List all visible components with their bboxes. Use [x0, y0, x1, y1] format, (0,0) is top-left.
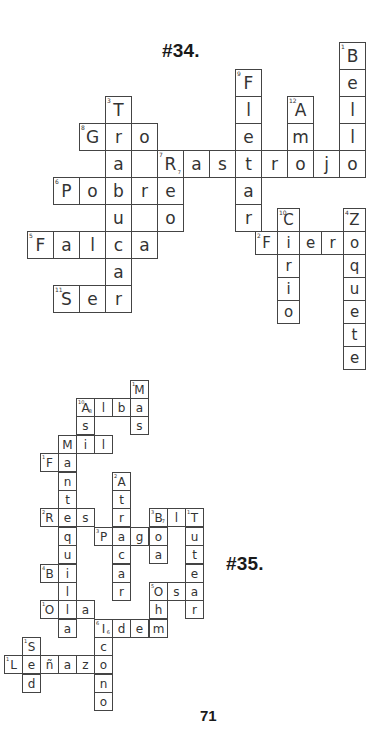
cell-letter: a: [64, 623, 71, 635]
crossword-cell: a: [58, 655, 77, 674]
cell-letter: F: [244, 75, 254, 92]
crossword-cell: 6P: [53, 177, 80, 205]
crossword-cell: o: [287, 150, 314, 178]
clue-number: 12: [289, 98, 297, 104]
crossword-cell: a: [105, 150, 132, 178]
cell-letter: g: [136, 531, 144, 543]
cell-letter: Z: [349, 213, 359, 228]
cell-letter: F: [46, 457, 53, 469]
clue-number: 1: [24, 639, 27, 644]
crossword-cell: e: [339, 69, 366, 97]
crossword-cell: e: [185, 564, 204, 583]
crossword-cell: a: [185, 582, 204, 601]
crossword-cell: e: [157, 177, 184, 205]
cell-letter: e: [347, 75, 357, 92]
clue-number: 7: [159, 152, 163, 158]
crossword-cell: a: [105, 258, 132, 286]
cell-letter: s: [82, 420, 88, 432]
crossword-cell: r: [131, 177, 158, 205]
crossword-cell: n: [94, 674, 113, 693]
cell-letter: a: [64, 457, 71, 469]
puzzle-title-34: #34.: [162, 40, 200, 62]
cell-letter: s: [173, 586, 179, 598]
cell-letter: t: [245, 156, 252, 173]
clue-number: 2: [257, 233, 261, 239]
crossword-cell: d: [22, 674, 41, 693]
cell-letter: a: [243, 183, 253, 200]
cell-letter: i: [286, 282, 290, 297]
cell-letter: I: [102, 623, 106, 635]
cell-letter: A: [117, 476, 125, 488]
cell-letter: r: [115, 291, 122, 308]
crossword-cell: e: [299, 231, 322, 255]
crossword-cell: 1S: [22, 637, 41, 656]
cell-letter: l: [102, 439, 105, 451]
crossword-cell: t: [235, 150, 262, 178]
crossword-cell: 1T: [185, 508, 204, 527]
crossword-cell: e: [58, 508, 77, 527]
clue-number: 5: [29, 233, 33, 239]
cell-letter: e: [87, 291, 97, 308]
crossword-cell: a: [183, 150, 210, 178]
crossword-cell: m: [149, 619, 168, 638]
crossword-cell: o: [149, 527, 168, 546]
cell-letter: r: [119, 586, 124, 598]
cell-letter: e: [28, 659, 35, 671]
cell-letter: e: [136, 623, 143, 635]
crossword-cell: r: [235, 204, 262, 232]
crossword-cell: i: [277, 277, 300, 301]
crossword-cell: e: [343, 346, 366, 370]
crossword-cell: n: [58, 472, 77, 491]
crossword-cell: 7R7: [157, 150, 184, 178]
cell-letter: F: [36, 237, 46, 254]
crossword-cell: h: [149, 600, 168, 619]
cell-letter: l: [102, 402, 105, 414]
crossword-cell: a: [130, 398, 149, 417]
crossword-cell: t: [58, 490, 77, 509]
cell-letter: r: [115, 129, 122, 146]
cell-letter: e: [64, 512, 71, 524]
crossword-cell: s: [76, 416, 95, 435]
clue-number: 2: [42, 510, 45, 515]
cell-letter: L: [10, 659, 17, 671]
cell-letter: S: [28, 641, 36, 653]
clue-number: 6: [96, 621, 99, 626]
cell-letter: s: [218, 156, 227, 173]
crossword-cell: M: [58, 435, 77, 454]
cell-letter: i: [286, 236, 290, 251]
crossword-cell: a: [112, 564, 131, 583]
crossword-cell: 11S: [53, 285, 80, 313]
cell-letter: o: [350, 236, 359, 251]
clue-number: 1: [187, 510, 190, 515]
cell-letter: P: [100, 531, 107, 543]
crossword-cell: s: [209, 150, 236, 178]
cell-letter: a: [61, 237, 71, 254]
clue-number: 11: [55, 287, 63, 293]
crossword-cell: 3P: [94, 527, 113, 546]
cell-letter: l: [90, 237, 95, 254]
crossword-cell: l: [167, 508, 186, 527]
crossword-cell: 6I6: [94, 619, 113, 638]
crossword-cell: d: [112, 619, 131, 638]
cell-letter: M: [134, 384, 144, 396]
crossword-cell: a: [131, 231, 158, 259]
crossword-cell: r: [105, 123, 132, 151]
cell-letter: e: [165, 183, 175, 200]
crossword-cell: o: [94, 692, 113, 711]
crossword-cell: s: [167, 582, 186, 601]
crossword-cell: ñ: [40, 655, 59, 674]
cell-letter: o: [347, 156, 357, 173]
crossword-cell: g: [130, 527, 149, 546]
crossword-cell: s: [130, 416, 149, 435]
clue-number: 4: [345, 210, 349, 216]
clue-number: 4: [42, 566, 45, 571]
crossword-cell: e: [22, 655, 41, 674]
cell-letter: a: [139, 237, 149, 254]
crossword-cell: e: [79, 285, 106, 313]
cell-letter: a: [155, 549, 162, 561]
crossword-cell: 2R: [40, 508, 59, 527]
cell-letter: t: [119, 494, 124, 506]
cell-letter: e: [243, 129, 253, 146]
clue-subscript: 8: [89, 409, 92, 414]
cell-letter: n: [100, 678, 108, 690]
